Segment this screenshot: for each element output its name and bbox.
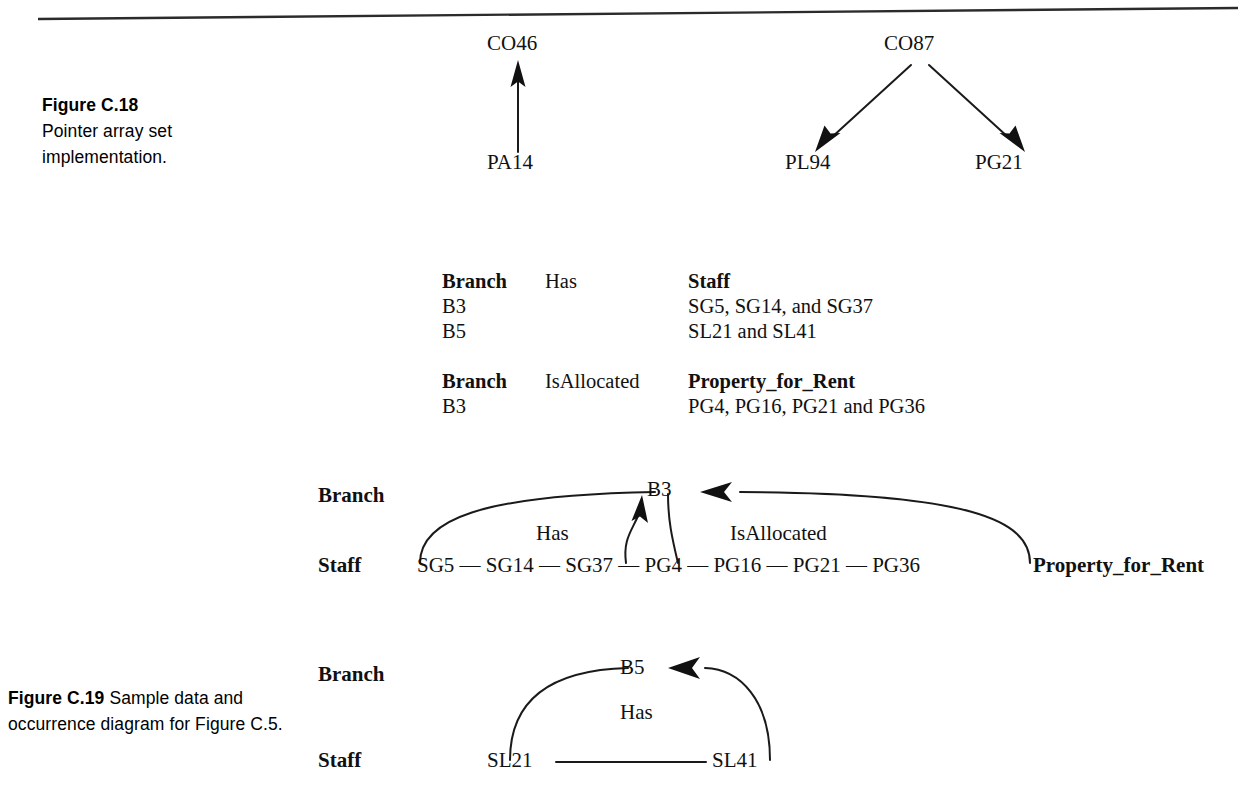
occurrence-b5-chain-link xyxy=(556,748,706,776)
table1-row1-left: B5 xyxy=(442,320,466,343)
chain-node: PG16 xyxy=(713,553,761,577)
arrow-pa14-to-co46 xyxy=(505,60,535,152)
figure-c18-caption: Figure C.18 Pointer array set implementa… xyxy=(42,92,262,170)
table2-relationship: IsAllocated xyxy=(545,370,640,393)
chain-node: PG21 xyxy=(793,553,841,577)
chain-node: PG4 xyxy=(645,553,682,577)
table2-col2-header: Property_for_Rent xyxy=(688,370,855,393)
table2-col1-header: Branch xyxy=(442,370,507,393)
figure-c19-caption: Figure C.19 Sample data and occurrence d… xyxy=(8,685,318,737)
chain-dash: — xyxy=(454,553,486,577)
node-pa14: PA14 xyxy=(487,150,533,175)
figure-page: Figure C.18 Pointer array set implementa… xyxy=(0,0,1246,804)
occurrence-b3-row-label-branch: Branch xyxy=(318,483,385,508)
node-co87: CO87 xyxy=(884,31,934,56)
occurrence-b5-chain-node-right: SL41 xyxy=(712,748,758,773)
occurrence-b3-rel-isallocated: IsAllocated xyxy=(730,521,827,546)
table1-row0-right: SG5, SG14, and SG37 xyxy=(688,295,873,318)
occurrence-b3-row-label-staff: Staff xyxy=(318,553,361,578)
occurrence-b3-node: B3 xyxy=(647,477,672,502)
chain-dash: — xyxy=(761,553,793,577)
node-co46: CO46 xyxy=(487,31,537,56)
table1-row1-right: SL21 and SL41 xyxy=(688,320,817,343)
occurrence-b3-chain: SG5 — SG14 — SG37 — PG4 — PG16 — PG21 — … xyxy=(417,553,1017,578)
occurrence-b5-rel-has: Has xyxy=(620,700,653,725)
chain-node: PG36 xyxy=(872,553,920,577)
node-pg21: PG21 xyxy=(975,150,1023,175)
node-pl94: PL94 xyxy=(785,150,831,175)
table2-row0-right: PG4, PG16, PG21 and PG36 xyxy=(688,395,925,418)
table1-row0-left: B3 xyxy=(442,295,466,318)
page-top-rule xyxy=(38,6,1238,22)
table1-col2-header: Staff xyxy=(688,270,730,293)
chain-dash: — xyxy=(841,553,873,577)
chain-dash: — xyxy=(534,553,566,577)
table1-col1-header: Branch xyxy=(442,270,507,293)
table1-relationship: Has xyxy=(545,270,577,293)
occurrence-b5-node: B5 xyxy=(620,655,645,680)
occurrence-b3-entity-right-label: Property_for_Rent xyxy=(1033,553,1204,578)
occurrence-b5-chain-node-left: SL21 xyxy=(487,748,533,773)
occurrence-b5-row-label-branch: Branch xyxy=(318,662,385,687)
arrow-co87-to-pg21 xyxy=(920,60,1030,152)
chain-dash: — xyxy=(613,553,645,577)
chain-node: SG5 xyxy=(417,553,454,577)
chain-dash: — xyxy=(682,553,714,577)
figure-c18-caption-label: Figure C.18 xyxy=(42,95,138,115)
arrow-co87-to-pl94 xyxy=(810,60,920,152)
occurrence-b5-row-label-staff: Staff xyxy=(318,748,361,773)
figure-c18-caption-text: Pointer array set implementation. xyxy=(42,121,172,167)
table2-row0-left: B3 xyxy=(442,395,466,418)
chain-node: SG37 xyxy=(565,553,613,577)
occurrence-b3-rel-has: Has xyxy=(536,521,569,546)
figure-c19-caption-label: Figure C.19 xyxy=(8,688,104,708)
chain-node: SG14 xyxy=(486,553,534,577)
